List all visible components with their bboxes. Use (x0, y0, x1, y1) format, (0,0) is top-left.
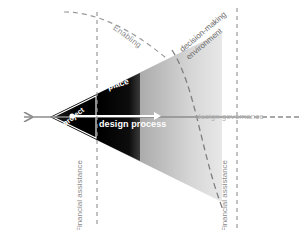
diagram-canvas: Enabling decision-making environment pro… (0, 0, 306, 230)
diagram-graphics (0, 0, 306, 230)
enabling-dashed-arc (64, 12, 166, 58)
